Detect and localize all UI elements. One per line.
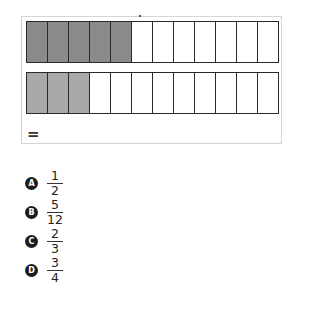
option-d[interactable]: D 3 4 <box>25 257 63 284</box>
unshaded-cell <box>216 22 237 62</box>
shaded-cell <box>27 22 48 62</box>
unshaded-cell <box>132 22 153 62</box>
numerator: 1 <box>51 170 59 182</box>
unshaded-cell <box>153 22 174 62</box>
denominator: 12 <box>47 214 63 226</box>
option-d-fraction: 3 4 <box>47 257 63 284</box>
unshaded-cell <box>216 73 237 113</box>
equals-sign: = <box>27 128 40 140</box>
option-d-badge-icon: D <box>25 264 38 277</box>
option-a[interactable]: A 1 2 <box>25 170 63 197</box>
shaded-cell <box>48 22 69 62</box>
option-b[interactable]: B 5 12 <box>25 199 63 226</box>
shaded-cell <box>27 73 48 113</box>
unshaded-cell <box>195 22 216 62</box>
shaded-cell <box>90 22 111 62</box>
unshaded-cell <box>90 73 111 113</box>
shaded-cell <box>69 22 90 62</box>
unshaded-cell <box>195 73 216 113</box>
option-b-badge-icon: B <box>25 206 38 219</box>
stray-mark <box>139 15 141 17</box>
unshaded-cell <box>258 73 278 113</box>
shaded-cell <box>111 22 132 62</box>
bottom-fraction-bar <box>26 72 279 114</box>
numerator: 5 <box>51 199 59 211</box>
denominator: 4 <box>51 272 59 284</box>
unshaded-cell <box>153 73 174 113</box>
unshaded-cell <box>174 22 195 62</box>
option-c-badge-icon: C <box>25 235 38 248</box>
denominator: 3 <box>51 243 59 255</box>
option-a-badge-icon: A <box>25 177 38 190</box>
unshaded-cell <box>132 73 153 113</box>
shaded-cell <box>48 73 69 113</box>
numerator: 2 <box>51 228 59 240</box>
unshaded-cell <box>174 73 195 113</box>
option-a-fraction: 1 2 <box>47 170 63 197</box>
numerator: 3 <box>51 257 59 269</box>
unshaded-cell <box>111 73 132 113</box>
option-b-fraction: 5 12 <box>47 199 63 226</box>
shaded-cell <box>69 73 90 113</box>
unshaded-cell <box>237 73 258 113</box>
top-fraction-bar <box>26 21 279 63</box>
unshaded-cell <box>258 22 278 62</box>
option-c[interactable]: C 2 3 <box>25 228 63 255</box>
option-c-fraction: 2 3 <box>47 228 63 255</box>
unshaded-cell <box>237 22 258 62</box>
denominator: 2 <box>51 185 59 197</box>
